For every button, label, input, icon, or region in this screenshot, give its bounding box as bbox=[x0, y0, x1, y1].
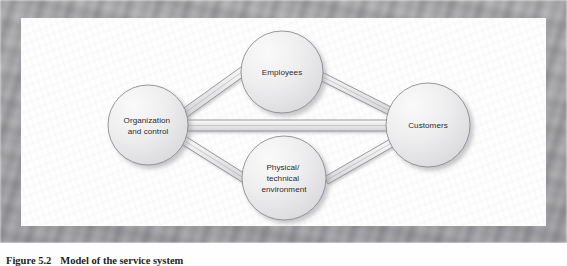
node-employees-label: Employees bbox=[262, 68, 303, 77]
node-physical-label: Physical/ technical environment bbox=[261, 163, 307, 194]
node-physical-technical-environment[interactable]: Physical/ technical environment bbox=[242, 136, 326, 220]
figure-number: Figure 5.2 bbox=[6, 255, 51, 266]
node-employees[interactable]: Employees bbox=[241, 31, 323, 113]
node-organization[interactable]: Organization and control bbox=[108, 85, 188, 165]
node-customers-label: Customers bbox=[408, 121, 448, 130]
figure-caption: Figure 5.2Model of the service system bbox=[6, 255, 436, 266]
node-customers[interactable]: Customers bbox=[386, 83, 470, 167]
service-system-diagram: Organization and control Employees Physi… bbox=[21, 18, 546, 226]
figure-title: Model of the service system bbox=[60, 255, 183, 266]
node-organization-circle bbox=[108, 85, 188, 165]
